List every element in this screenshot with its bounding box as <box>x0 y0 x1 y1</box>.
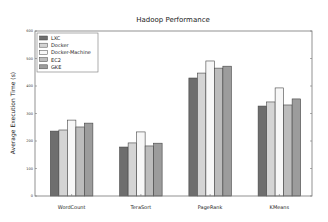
legend-swatch <box>40 36 48 40</box>
y-tick-label: 400 <box>26 84 33 88</box>
bar-ec2-terasort <box>145 146 154 196</box>
bar-gke-kmeans <box>292 99 301 196</box>
x-category-label: KMeans <box>270 204 290 210</box>
bar-lxc-kmeans <box>258 106 267 196</box>
y-tick-label: 200 <box>26 139 33 143</box>
bar-docker-machine-wordcount <box>67 120 76 196</box>
y-tick-label: 100 <box>26 167 33 171</box>
bar-gke-pagerank <box>223 66 232 196</box>
y-tick-label: 0 <box>31 194 33 198</box>
bar-ec2-kmeans <box>284 105 293 196</box>
bar-gke-wordcount <box>84 123 93 196</box>
bar-docker-machine-pagerank <box>206 61 215 196</box>
bar-ec2-wordcount <box>76 127 85 196</box>
bar-docker-kmeans <box>267 102 276 196</box>
legend-label: LXC <box>51 35 61 41</box>
legend-swatch <box>40 50 48 54</box>
chart-title: Hadoop Performance <box>136 16 210 24</box>
bars <box>50 61 300 196</box>
x-category-label: TeraSort <box>130 204 152 210</box>
bar-lxc-terasort <box>120 147 129 196</box>
legend-swatch <box>40 43 48 47</box>
legend-label: EC2 <box>51 57 61 63</box>
bar-docker-pagerank <box>197 73 206 196</box>
bar-docker-machine-kmeans <box>275 88 284 196</box>
bar-gke-terasort <box>154 143 163 196</box>
legend-label: Docker-Machine <box>51 49 91 55</box>
bar-docker-machine-terasort <box>137 132 146 196</box>
legend: LXCDockerDocker-MachineEC2GKE <box>37 33 98 72</box>
bar-docker-terasort <box>128 143 137 196</box>
bar-lxc-wordcount <box>50 131 59 196</box>
x-axis-categories: WordCountTeraSortPageRankKMeans <box>58 194 290 211</box>
bar-docker-wordcount <box>59 130 68 196</box>
legend-label: Docker <box>51 42 69 48</box>
x-category-label: WordCount <box>58 204 86 210</box>
x-category-label: PageRank <box>198 204 223 211</box>
bar-ec2-pagerank <box>214 68 223 196</box>
legend-swatch <box>40 58 48 62</box>
bar-chart: Hadoop Performance Average Execution Tim… <box>0 0 328 222</box>
y-axis-label: Average Execution Time (s) <box>9 72 17 154</box>
y-tick-label: 600 <box>26 29 33 33</box>
legend-swatch <box>40 65 48 69</box>
y-tick-label: 500 <box>26 57 33 61</box>
y-tick-label: 300 <box>26 112 33 116</box>
bar-lxc-pagerank <box>189 78 198 196</box>
legend-label: GKE <box>51 64 61 70</box>
